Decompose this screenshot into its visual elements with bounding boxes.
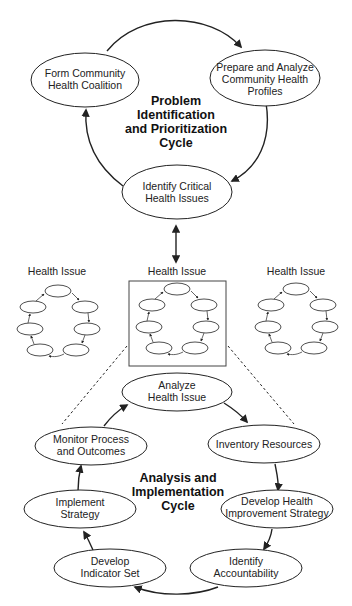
health-cycle-diagram: Form Community Health Coalition Prepare … <box>0 0 352 606</box>
svg-text:Form Community: Form Community <box>45 67 126 79</box>
node-analyze-health-issue: Analyze Health Issue <box>122 373 232 411</box>
arrow-indicators-to-implement <box>84 532 93 550</box>
svg-text:Profiles: Profiles <box>247 85 282 97</box>
analysis-implementation-cycle: Analyze Health Issue Inventory Resources… <box>24 373 333 594</box>
health-issue-right: Health Issue <box>255 265 338 355</box>
svg-text:Implementation: Implementation <box>132 485 224 499</box>
health-issue-left: Health Issue <box>17 265 100 357</box>
arrow-profiles-to-issues <box>232 103 267 181</box>
svg-text:Health Issue: Health Issue <box>267 265 326 277</box>
svg-text:Identify Critical: Identify Critical <box>143 180 212 192</box>
node-inventory-resources: Inventory Resources <box>208 425 320 463</box>
svg-text:Accountability: Accountability <box>214 567 280 579</box>
svg-text:Health Issue: Health Issue <box>148 265 207 277</box>
svg-text:Develop Health: Develop Health <box>241 495 313 507</box>
arrow-monitor-to-analyze <box>104 405 127 426</box>
svg-text:Health Issues: Health Issues <box>145 192 209 204</box>
svg-text:Health Issue: Health Issue <box>28 265 87 277</box>
svg-text:Inventory Resources: Inventory Resources <box>216 438 312 450</box>
arrow-coalition-to-profiles <box>107 20 241 51</box>
svg-text:Indicator Set: Indicator Set <box>81 567 140 579</box>
svg-text:Problem: Problem <box>151 94 201 108</box>
svg-text:Strategy: Strategy <box>60 508 100 520</box>
node-monitor-process-outcomes: Monitor Process and Outcomes <box>35 427 147 465</box>
svg-text:Develop: Develop <box>91 555 130 567</box>
problem-identification-cycle: Form Community Health Coalition Prepare … <box>31 20 320 219</box>
svg-text:Implement: Implement <box>55 496 104 508</box>
node-identify-accountability: Identify Accountability <box>190 549 302 587</box>
arrow-implement-to-monitor <box>78 466 81 491</box>
svg-text:Prepare and Analyze: Prepare and Analyze <box>216 61 314 73</box>
arrow-accountability-to-indicators <box>135 587 218 594</box>
node-prepare-analyze-profiles: Prepare and Analyze Community Health Pro… <box>210 50 320 106</box>
svg-text:Health Issue: Health Issue <box>148 391 207 403</box>
health-issue-center: Health Issue <box>129 265 226 366</box>
node-form-community-health-coalition: Form Community Health Coalition <box>31 53 139 107</box>
arrow-strategy-to-accountability <box>264 529 272 549</box>
svg-text:Cycle: Cycle <box>159 136 192 150</box>
arrow-issues-to-coalition <box>86 110 123 186</box>
svg-text:Improvement Strategy: Improvement Strategy <box>225 507 329 519</box>
svg-text:Identification: Identification <box>137 108 215 122</box>
svg-text:and Prioritization: and Prioritization <box>125 122 227 136</box>
svg-text:Analyze: Analyze <box>158 379 196 391</box>
arrow-analyze-to-inventory <box>224 403 247 422</box>
svg-text:Identify: Identify <box>229 555 264 567</box>
node-develop-indicator-set: Develop Indicator Set <box>54 549 166 587</box>
top-cycle-title: Problem Identification and Prioritizatio… <box>125 94 227 150</box>
svg-text:Analysis and: Analysis and <box>139 471 216 485</box>
svg-text:Health Coalition: Health Coalition <box>48 79 122 91</box>
svg-text:and Outcomes: and Outcomes <box>57 445 125 457</box>
node-develop-health-improvement-strategy: Develop Health Improvement Strategy <box>221 490 333 528</box>
arrow-inventory-to-strategy <box>275 464 278 490</box>
svg-text:Community Health: Community Health <box>222 73 309 85</box>
svg-text:Cycle: Cycle <box>161 499 194 513</box>
node-identify-critical-health-issues: Identify Critical Health Issues <box>122 165 232 219</box>
node-implement-strategy: Implement Strategy <box>24 490 136 528</box>
bottom-cycle-title: Analysis and Implementation Cycle <box>132 471 224 513</box>
svg-text:Monitor Process: Monitor Process <box>53 433 129 445</box>
